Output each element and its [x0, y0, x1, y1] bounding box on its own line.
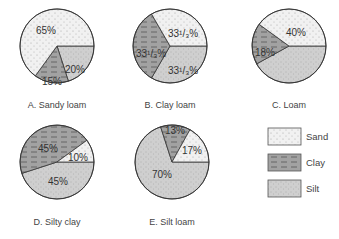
legend-label-clay: Clay	[306, 157, 325, 168]
chart-title: D. Silty clay	[33, 217, 81, 227]
chart-title: A. Sandy loam	[28, 100, 87, 110]
legend-label-silt: Silt	[306, 183, 320, 194]
slice-label-silt: 45%	[48, 176, 68, 187]
pie-clay-loam: 33¹/₃% 33¹/₃% 33¹/₃% B. Clay loam	[133, 9, 207, 110]
slice-label-clay: 45%	[38, 143, 58, 154]
pie-loam: 40% 18% C. Loam	[252, 9, 326, 110]
slice-label-sand: 65%	[36, 25, 56, 36]
slice-label-clay: 13%	[165, 125, 185, 136]
slice-label-clay: 15%	[42, 76, 62, 87]
slice-label-clay: 33¹/₃%	[136, 48, 166, 59]
soil-pie-charts: 65% 20% 15% A. Sandy loam 33¹/₃% 33¹/₃% …	[0, 0, 339, 239]
chart-title: C. Loam	[272, 100, 306, 110]
legend: Sand Clay Silt	[268, 128, 328, 197]
legend-swatch-silt	[268, 180, 301, 197]
legend-swatch-sand	[268, 128, 301, 145]
slice-label-clay: 18%	[255, 47, 275, 58]
legend-swatch-clay	[268, 154, 301, 171]
chart-title: E. Silt loam	[149, 217, 195, 227]
slice-label-silt: 33¹/₃%	[168, 65, 198, 76]
slice-label-sand: 17%	[182, 145, 202, 156]
pie-sandy-loam: 65% 20% 15% A. Sandy loam	[20, 9, 94, 110]
chart-title: B. Clay loam	[144, 100, 195, 110]
legend-label-sand: Sand	[306, 131, 328, 142]
pie-silty-clay: 45% 10% 45% D. Silty clay	[20, 125, 94, 227]
slice-label-silt: 20%	[65, 64, 85, 75]
slice-label-sand: 10%	[68, 152, 88, 163]
slice-label-sand: 33¹/₃%	[168, 28, 198, 39]
pie-silt-loam: 13% 17% 70% E. Silt loam	[135, 125, 209, 227]
slice-label-silt: 70%	[152, 169, 172, 180]
slice-label-sand: 40%	[286, 27, 306, 38]
